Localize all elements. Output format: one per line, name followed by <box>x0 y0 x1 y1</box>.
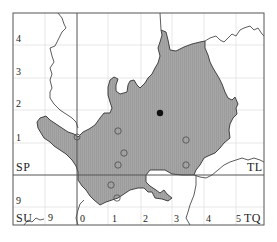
left-label-3: 3 <box>16 67 21 77</box>
left-label-1: 1 <box>16 133 21 143</box>
bottom-label-3: 3 <box>174 214 179 224</box>
grid-square-sp: SP <box>16 161 30 173</box>
bottom-label-2: 2 <box>143 214 148 224</box>
left-label-9: 9 <box>16 196 21 206</box>
county-area <box>37 30 238 205</box>
filled-record-marker <box>157 110 163 116</box>
grid-square-tq: TQ <box>244 212 261 224</box>
distribution-map <box>0 0 277 242</box>
grid-square-tl: TL <box>247 161 263 173</box>
left-label-4: 4 <box>16 34 21 44</box>
bottom-label-9: 9 <box>48 213 53 223</box>
bottom-label-1: 1 <box>112 214 117 224</box>
left-label-2: 2 <box>16 99 21 109</box>
bottom-label-5: 5 <box>236 214 241 224</box>
bottom-label-0: 0 <box>80 214 85 224</box>
grid-square-su: SU <box>16 212 32 224</box>
bottom-label-4: 4 <box>206 214 211 224</box>
